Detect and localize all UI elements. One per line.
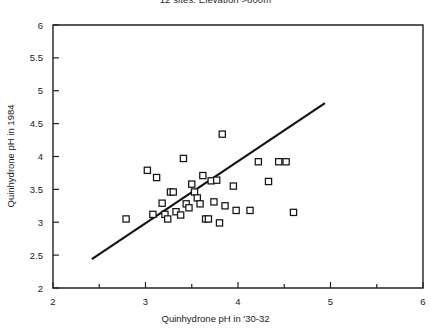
- y-axis-tick-labels: 22.533.544.555.56: [30, 20, 43, 294]
- data-point-marker: [178, 212, 184, 218]
- y-tick-label: 5: [38, 85, 43, 96]
- data-point-marker: [189, 181, 195, 187]
- y-tick-label: 4: [38, 151, 43, 162]
- data-point-marker: [290, 209, 296, 215]
- data-point-marker: [144, 167, 150, 173]
- data-point-marker: [265, 178, 271, 184]
- plot-canvas: 22.533.544.555.56 23456 Quinhydrone pH i…: [0, 0, 431, 328]
- scatter-plot-figure: 12 sites: Elevation >800m 22.533.544.555…: [0, 0, 431, 328]
- data-point-marker: [255, 159, 261, 165]
- y-tick-label: 2: [38, 283, 43, 294]
- y-tick-label: 3: [38, 217, 43, 228]
- y-tick-label: 4.5: [30, 118, 43, 129]
- y-tick-label: 5.5: [30, 52, 43, 63]
- data-point-marker: [194, 195, 200, 201]
- data-point-marker: [276, 159, 282, 165]
- data-point-marker: [211, 199, 217, 205]
- data-point-marker: [165, 216, 171, 222]
- data-point-marker: [222, 203, 228, 209]
- data-point-marker: [214, 177, 220, 183]
- data-point-marker: [219, 131, 225, 137]
- data-point-marker: [216, 220, 222, 226]
- x-tick-label: 5: [328, 296, 333, 307]
- x-axis-title: Quinhydrone pH in '30-32: [162, 313, 270, 324]
- data-point-marker: [154, 174, 160, 180]
- y-axis-title: Quinhydrone pH in 1984: [5, 105, 16, 208]
- data-point-marker: [180, 155, 186, 161]
- data-point-marker: [200, 172, 206, 178]
- data-point-marker: [159, 200, 165, 206]
- y-tick-label: 6: [38, 20, 43, 31]
- data-point-marker: [150, 211, 156, 217]
- data-point-markers: [123, 131, 297, 226]
- data-point-marker: [170, 189, 176, 195]
- x-tick-label: 3: [143, 296, 148, 307]
- data-point-marker: [247, 207, 253, 213]
- x-tick-label: 2: [50, 296, 55, 307]
- x-tick-label: 4: [235, 296, 240, 307]
- data-point-marker: [230, 183, 236, 189]
- data-point-marker: [205, 216, 211, 222]
- data-point-marker: [233, 207, 239, 213]
- y-tick-label: 3.5: [30, 184, 43, 195]
- x-tick-label: 6: [420, 296, 425, 307]
- data-point-marker: [197, 201, 203, 207]
- y-tick-label: 2.5: [30, 250, 43, 261]
- x-axis-tick-labels: 23456: [50, 296, 425, 307]
- data-point-marker: [191, 189, 197, 195]
- data-point-marker: [283, 159, 289, 165]
- data-point-marker: [123, 216, 129, 222]
- data-point-marker: [186, 205, 192, 211]
